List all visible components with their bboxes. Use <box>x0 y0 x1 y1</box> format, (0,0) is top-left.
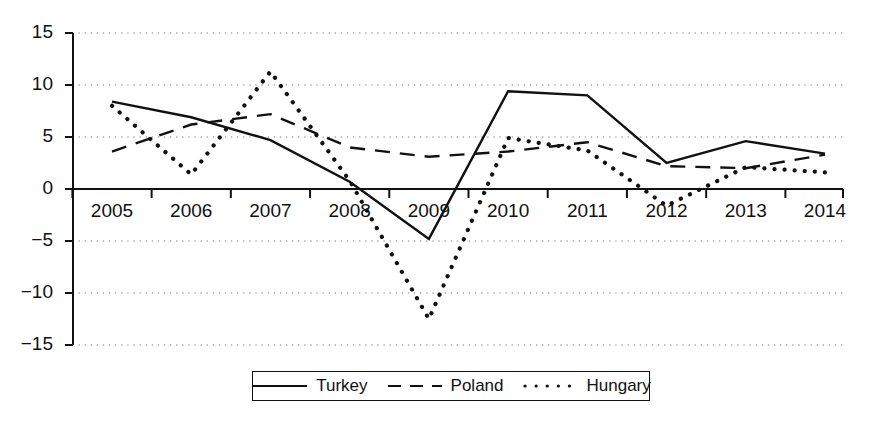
legend-item-poland: Poland <box>386 376 504 396</box>
y-tick-label: 10 <box>5 73 53 95</box>
legend-item-turkey: Turkey <box>251 376 367 396</box>
x-tick-label: 2007 <box>232 200 308 222</box>
x-tick-label: 2006 <box>153 200 229 222</box>
x-tick-label: 2014 <box>787 200 863 222</box>
x-tick-label: 2010 <box>470 200 546 222</box>
y-axis-ticks <box>65 33 73 345</box>
x-tick-label: 2012 <box>629 200 705 222</box>
legend-item-hungary: Hungary <box>522 376 651 396</box>
y-tick-label: −15 <box>5 333 53 355</box>
axis-lines <box>73 33 843 345</box>
legend-label-poland: Poland <box>451 376 504 396</box>
y-tick-label: −5 <box>5 229 53 251</box>
y-tick-label: −10 <box>5 281 53 303</box>
x-axis-ticks <box>72 189 843 198</box>
x-tick-label: 2009 <box>391 200 467 222</box>
series-line-poland <box>112 114 825 168</box>
x-tick-label: 2008 <box>312 200 388 222</box>
legend-label-turkey: Turkey <box>316 376 367 396</box>
x-tick-label: 2005 <box>74 200 150 222</box>
y-tick-label: 5 <box>5 125 53 147</box>
chart-legend: Turkey Poland Hungary <box>252 371 650 401</box>
x-tick-label: 2013 <box>708 200 784 222</box>
legend-swatch-solid-icon <box>251 379 309 393</box>
legend-swatch-dashed-icon <box>386 379 444 393</box>
y-tick-label: 0 <box>5 177 53 199</box>
legend-label-hungary: Hungary <box>587 376 651 396</box>
x-tick-label: 2011 <box>549 200 625 222</box>
y-tick-label: 15 <box>5 21 53 43</box>
line-chart: 151050−5−10−15 2005200620072008200920102… <box>0 0 884 426</box>
legend-swatch-dotted-icon <box>522 379 580 393</box>
